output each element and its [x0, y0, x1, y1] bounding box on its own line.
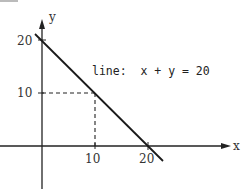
line-x-plus-y-20 [35, 34, 163, 161]
line-chart: x y 20 10 10 20 line: x + y = 20 [0, 0, 241, 194]
x-tick-label-10: 10 [85, 152, 100, 166]
y-axis-arrow-icon [39, 19, 45, 29]
y-tick-label-10: 10 [17, 86, 32, 100]
x-tick-label-20: 20 [139, 152, 154, 166]
equation-annotation: line: x + y = 20 [92, 64, 210, 78]
y-axis-label: y [48, 10, 56, 24]
scan-mark [0, 0, 18, 2]
x-axis-label: x [233, 139, 240, 153]
y-tick-label-20: 20 [17, 34, 32, 48]
x-axis-arrow-icon [221, 143, 231, 149]
